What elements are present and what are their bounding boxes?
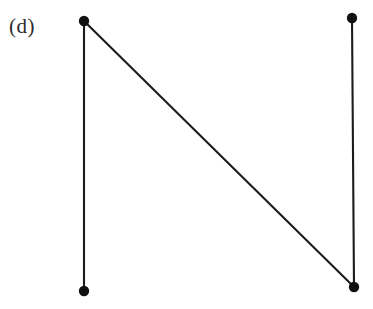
edge-layer — [84, 18, 354, 291]
graph-vertex-v2 — [347, 13, 357, 23]
figure-panel: (d) — [0, 0, 373, 309]
graph-vertex-v3 — [79, 286, 89, 296]
graph-diagram — [0, 0, 373, 309]
graph-edge-e3 — [84, 21, 354, 287]
graph-vertex-v4 — [349, 282, 359, 292]
graph-edge-e2 — [352, 18, 354, 287]
graph-vertex-v1 — [79, 16, 89, 26]
